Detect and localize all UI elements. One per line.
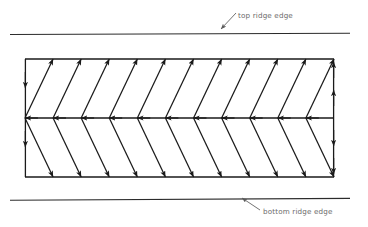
chevron-upper-3	[109, 59, 137, 118]
chevron-lower-3	[109, 118, 137, 177]
chevron-upper-2	[81, 59, 109, 118]
chevron-upper-6	[194, 59, 222, 118]
top-ridge-leader-arrow	[221, 13, 236, 29]
chevron-lower-10	[306, 118, 334, 177]
chevron-upper-7	[222, 59, 250, 118]
annotation-leader-group	[221, 13, 260, 210]
chevron-lower-5	[165, 118, 193, 177]
chevron-lower-9	[278, 118, 306, 177]
bottom-ridge-edge-label: bottom ridge edge	[263, 207, 333, 216]
chevron-lower-7	[222, 118, 250, 177]
top-ridge-edge-label: top ridge edge	[238, 11, 293, 20]
chevron-lower-4	[137, 118, 165, 177]
diagram-canvas: top ridge edge bottom ridge edge	[0, 0, 368, 227]
ridge-edge-group	[10, 33, 350, 200]
chevron-upper-4	[137, 59, 165, 118]
chevron-upper-1	[53, 59, 81, 118]
chevron-lower-6	[194, 118, 222, 177]
chevron-upper-10	[306, 59, 334, 118]
chevron-upper-0	[25, 59, 53, 118]
chevron-upper-8	[250, 59, 278, 118]
chevron-ridge-diagram	[0, 0, 368, 227]
chevron-upper-5	[165, 59, 193, 118]
chevron-lower-1	[53, 118, 81, 177]
top-ridge-line	[10, 33, 350, 34]
chevron-lower-8	[250, 118, 278, 177]
bottom-ridge-leader-arrow	[242, 198, 260, 210]
chevron-lower-2	[81, 118, 109, 177]
chevron-lower-0	[25, 118, 53, 177]
bottom-ridge-line	[10, 198, 350, 200]
chevron-upper-9	[278, 59, 306, 118]
